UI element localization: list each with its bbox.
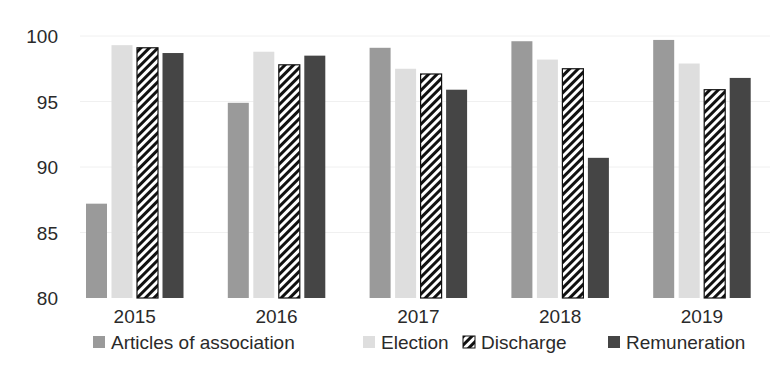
bar-election-2015 xyxy=(112,45,133,298)
bar-election-2016 xyxy=(253,52,274,298)
bar-group-2015 xyxy=(86,45,184,298)
y-tick-label: 95 xyxy=(37,92,58,113)
legend-item-discharge[interactable]: Discharge xyxy=(463,332,567,353)
bar-articles-of-association-2016 xyxy=(228,103,249,298)
legend-swatch xyxy=(463,336,475,348)
legend-item-remuneration[interactable]: Remuneration xyxy=(608,332,745,353)
x-axis: 20152016201720182019 xyxy=(114,306,723,327)
bar-articles-of-association-2017 xyxy=(370,48,391,298)
bar-group-2018 xyxy=(511,41,609,298)
bar-remuneration-2015 xyxy=(163,53,184,298)
bar-articles-of-association-2015 xyxy=(86,204,107,298)
bar-discharge-2019 xyxy=(704,90,725,298)
bar-group-2019 xyxy=(653,40,751,298)
legend-swatch xyxy=(608,336,620,348)
x-tick-label: 2018 xyxy=(539,306,581,327)
bar-remuneration-2016 xyxy=(304,56,325,298)
bar-articles-of-association-2018 xyxy=(511,41,532,298)
y-tick-label: 85 xyxy=(37,223,58,244)
bar-remuneration-2018 xyxy=(588,158,609,298)
bar-discharge-2018 xyxy=(562,69,583,298)
y-axis: 80859095100 xyxy=(26,26,58,309)
x-tick-label: 2016 xyxy=(255,306,297,327)
bar-election-2017 xyxy=(395,69,416,298)
bar-discharge-2015 xyxy=(137,48,158,298)
bar-remuneration-2017 xyxy=(446,90,467,298)
y-tick-label: 100 xyxy=(26,26,58,47)
bar-election-2019 xyxy=(679,64,700,298)
bar-discharge-2017 xyxy=(421,74,442,298)
legend-label: Election xyxy=(381,332,449,353)
legend-item-election[interactable]: Election xyxy=(363,332,449,353)
bar-discharge-2016 xyxy=(279,65,300,298)
bar-group-2016 xyxy=(228,52,325,298)
bars xyxy=(86,40,751,298)
legend-label: Discharge xyxy=(481,332,567,353)
legend: Articles of associationElectionDischarge… xyxy=(93,332,745,353)
legend-swatch xyxy=(93,336,105,348)
x-tick-label: 2017 xyxy=(397,306,439,327)
x-tick-label: 2019 xyxy=(681,306,723,327)
bar-group-2017 xyxy=(370,48,468,298)
legend-label: Remuneration xyxy=(626,332,745,353)
legend-label: Articles of association xyxy=(111,332,295,353)
x-tick-label: 2015 xyxy=(114,306,156,327)
bar-articles-of-association-2019 xyxy=(653,40,674,298)
bar-election-2018 xyxy=(537,60,558,298)
bar-remuneration-2019 xyxy=(730,78,751,298)
y-tick-label: 80 xyxy=(37,288,58,309)
legend-item-articles-of-association[interactable]: Articles of association xyxy=(93,332,295,353)
y-tick-label: 90 xyxy=(37,157,58,178)
legend-swatch xyxy=(363,336,375,348)
grouped-bar-chart: 80859095100 20152016201720182019 Article… xyxy=(0,0,777,371)
